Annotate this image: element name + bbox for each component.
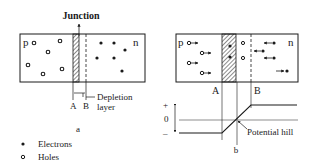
caption-b: b bbox=[234, 145, 239, 155]
depletion-label-line2: layer bbox=[97, 102, 115, 112]
electron-legend-icon bbox=[21, 142, 24, 145]
n-region-label-a: n bbox=[133, 36, 139, 48]
caption-a: a bbox=[76, 124, 80, 134]
label-a-fig-b: A bbox=[212, 85, 220, 96]
zero-label: 0 bbox=[164, 114, 169, 124]
figure-a: Junction p n A bbox=[20, 10, 145, 134]
junction-label: Junction bbox=[62, 10, 100, 21]
legend: Electrons Holes bbox=[21, 139, 72, 162]
potential-hill-label: Potential hill bbox=[247, 127, 294, 137]
semiconductor-block-b bbox=[176, 34, 298, 82]
holes-group-a bbox=[26, 39, 64, 76]
electrons-moving-group-b bbox=[254, 41, 289, 72]
label-b-fig-a: B bbox=[83, 101, 89, 111]
n-region-label-b: n bbox=[288, 36, 294, 48]
junction-hatched-region-a bbox=[73, 34, 79, 82]
potential-pointer-icon bbox=[238, 121, 247, 129]
holes-moving-group-b bbox=[187, 41, 211, 74]
label-a-fig-a: A bbox=[70, 101, 77, 111]
electrons-legend-label: Electrons bbox=[38, 139, 72, 149]
semiconductor-block-a bbox=[20, 34, 145, 82]
depletion-label-line1: Depletion bbox=[97, 92, 133, 102]
holes-legend-label: Holes bbox=[38, 152, 59, 162]
minus-label: – bbox=[162, 128, 168, 138]
label-b-fig-b: B bbox=[254, 85, 261, 96]
p-region-label-b: p bbox=[178, 36, 184, 48]
figure-b: p n bbox=[162, 34, 298, 155]
p-region-label-a: p bbox=[23, 36, 29, 48]
pn-junction-diagram: Junction p n A bbox=[0, 0, 324, 166]
electrons-group-a bbox=[95, 41, 126, 72]
plus-label: + bbox=[163, 100, 168, 110]
hole-legend-icon bbox=[21, 155, 24, 158]
